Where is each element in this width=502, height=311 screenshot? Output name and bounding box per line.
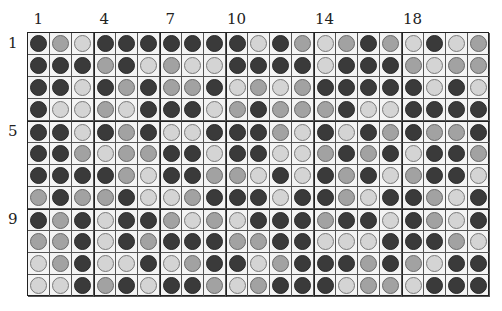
grid-cell [358,187,380,209]
medium-disc-icon [184,189,201,206]
dark-disc-icon [74,57,91,74]
grid-cell [292,275,314,297]
dark-disc-icon [470,277,487,294]
dark-disc-icon [360,57,377,74]
grid-cell [248,231,270,253]
grid-cell [424,187,446,209]
grid-cell [270,143,292,165]
grid-cell [204,121,226,143]
light-disc-icon [140,277,157,294]
dark-disc-icon [338,212,355,229]
grid-cell [314,121,336,143]
grid-cell [94,253,116,275]
medium-disc-icon [52,255,69,272]
grid-cell [226,143,248,165]
grid-cell [314,55,336,77]
dark-disc-icon [470,124,487,141]
medium-disc-icon [382,277,399,294]
grid-cell [468,187,490,209]
dark-disc-icon [74,167,91,184]
dark-disc-icon [360,79,377,96]
grid-cell [468,77,490,99]
grid-cell [50,231,72,253]
grid-cell [336,275,358,297]
dark-disc-icon [97,79,114,96]
grid-cell [28,187,50,209]
grid-cell [270,231,292,253]
light-disc-icon [74,79,91,96]
medium-disc-icon [470,35,487,52]
medium-disc-icon [118,167,135,184]
grid-cell [336,99,358,121]
grid-cell [182,253,204,275]
grid-cell [226,165,248,187]
dark-disc-icon [448,145,465,162]
grid-cell [28,33,50,55]
light-disc-icon [163,124,180,141]
dark-disc-icon [317,189,334,206]
medium-disc-icon [426,212,443,229]
medium-disc-icon [448,124,465,141]
grid-cell [424,121,446,143]
dark-disc-icon [405,79,422,96]
medium-disc-icon [250,233,267,250]
grid-cell [28,209,50,231]
dark-disc-icon [250,57,267,74]
grid-cell [160,165,182,187]
medium-disc-icon [163,57,180,74]
light-disc-icon [229,277,246,294]
medium-disc-icon [272,124,289,141]
dark-disc-icon [338,57,355,74]
dark-disc-icon [206,35,223,52]
grid-cell [72,231,94,253]
dark-disc-icon [470,189,487,206]
medium-disc-icon [206,212,223,229]
grid-cell [468,55,490,77]
grid-cell [292,77,314,99]
dark-disc-icon [97,167,114,184]
grid-cell [116,121,138,143]
grid-cell [226,187,248,209]
grid-cell [94,231,116,253]
grid-cell [292,253,314,275]
grid-cell [270,253,292,275]
grid-cell [248,33,270,55]
grid-cell [226,275,248,297]
medium-disc-icon [250,79,267,96]
grid-cell [28,55,50,77]
grid-cell [402,77,424,99]
grid-cell [182,33,204,55]
dark-disc-icon [52,189,69,206]
grid-cell [138,143,160,165]
light-disc-icon [30,255,47,272]
medium-disc-icon [272,101,289,118]
grid-cell [138,187,160,209]
grid-cell [28,121,50,143]
dark-disc-icon [317,124,334,141]
light-disc-icon [470,167,487,184]
grid-cell [468,99,490,121]
column-label: 14 [315,10,334,28]
dark-disc-icon [405,101,422,118]
grid-cell [204,253,226,275]
grid-cell [138,165,160,187]
grid-cell [138,99,160,121]
dark-disc-icon [118,35,135,52]
grid-cell [314,165,336,187]
column-label: 7 [166,10,176,28]
grid-cell [28,275,50,297]
dark-disc-icon [426,35,443,52]
light-disc-icon [206,145,223,162]
grid-cell [50,121,72,143]
row-label: 1 [8,34,18,52]
grid-cell [358,99,380,121]
light-disc-icon [118,255,135,272]
grid-cell [226,77,248,99]
medium-disc-icon [184,79,201,96]
light-disc-icon [250,167,267,184]
light-disc-icon [140,57,157,74]
grid-cell [380,121,402,143]
medium-disc-icon [426,189,443,206]
grid-cell [248,165,270,187]
grid-cell [402,55,424,77]
